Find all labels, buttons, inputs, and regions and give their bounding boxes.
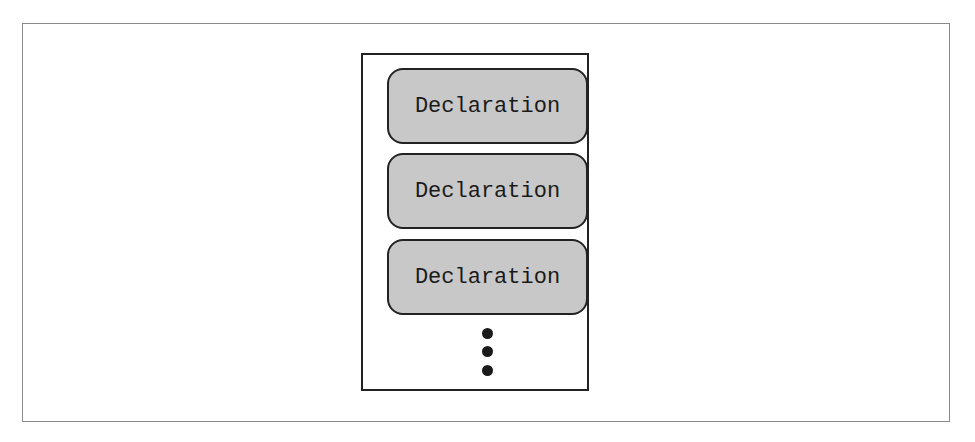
declaration-box-2: Declaration (387, 153, 588, 229)
ellipsis-dot-1 (482, 328, 493, 339)
declaration-box-3: Declaration (387, 239, 588, 315)
ellipsis-dot-2 (482, 346, 493, 357)
declaration-label: Declaration (415, 265, 560, 290)
ellipsis-dot-3 (482, 365, 493, 376)
declaration-box-1: Declaration (387, 68, 588, 144)
declaration-label: Declaration (415, 94, 560, 119)
declaration-label: Declaration (415, 179, 560, 204)
